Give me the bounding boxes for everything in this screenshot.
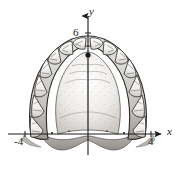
dental-arch-coordinate-figure: y x 6 -4 4 [0,0,179,169]
y-axis-tick-label-6: 6 [73,27,79,38]
x-axis-tick-label-negative-4: -4 [14,136,23,147]
x-axis-tick-label-4: 4 [148,136,154,147]
x-axis-label: x [167,126,172,137]
y-axis-label: y [89,6,94,17]
